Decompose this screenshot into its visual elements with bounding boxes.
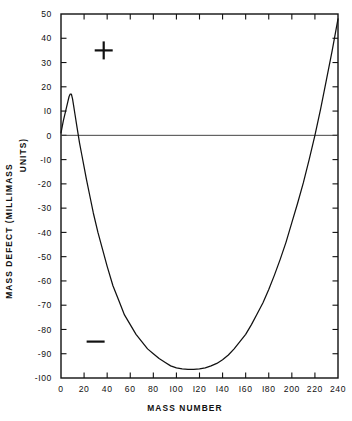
y-tick-label: -70 <box>38 300 52 310</box>
y-tick-label: -80 <box>38 325 52 335</box>
chart-background <box>0 0 352 421</box>
y-tick-label: -50 <box>38 252 52 262</box>
x-tick-label: 20 <box>79 384 90 394</box>
y-tick-label: 40 <box>41 33 52 43</box>
chart-svg: 020406080I00I20I40I60I80200220240 504030… <box>0 0 352 421</box>
x-tick-label: 0 <box>58 384 63 394</box>
x-tick-label: 80 <box>148 384 159 394</box>
x-tick-label: I00 <box>170 384 184 394</box>
y-tick-label: -20 <box>38 179 52 189</box>
y-tick-label: I0 <box>44 106 52 116</box>
y-axis-title-line2: UNITS) <box>18 138 28 173</box>
x-tick-label: 40 <box>102 384 113 394</box>
x-tick-label: I60 <box>239 384 253 394</box>
y-tick-label: -I00 <box>35 373 52 383</box>
y-tick-label: 30 <box>41 58 52 68</box>
y-tick-label: -40 <box>38 228 52 238</box>
x-axis-title: MASS NUMBER <box>147 403 222 413</box>
x-tick-label: I80 <box>262 384 276 394</box>
y-tick-label: -90 <box>38 349 52 359</box>
x-tick-label: 60 <box>125 384 136 394</box>
y-tick-label: -60 <box>38 276 52 286</box>
y-tick-label: -I0 <box>40 155 52 165</box>
x-tick-label: 220 <box>307 384 323 394</box>
y-tick-label: 50 <box>41 9 52 19</box>
y-tick-label: -30 <box>38 203 52 213</box>
y-axis-title-line1: MASS DEFECT (MILLIMASS <box>4 163 14 298</box>
y-tick-label: 0 <box>47 131 52 141</box>
y-tick-label: 20 <box>41 82 52 92</box>
x-tick-label: 240 <box>330 384 346 394</box>
x-tick-label: I20 <box>193 384 207 394</box>
x-tick-label: 200 <box>284 384 300 394</box>
mass-defect-chart: 020406080I00I20I40I60I80200220240 504030… <box>0 0 352 421</box>
x-tick-label: I40 <box>216 384 230 394</box>
